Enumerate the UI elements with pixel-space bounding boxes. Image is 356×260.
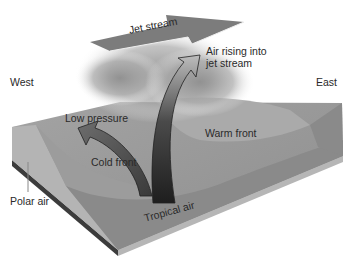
diagram-graphic [0, 0, 356, 260]
east-label: East [316, 77, 337, 89]
warm-front-label: Warm front [205, 128, 257, 140]
cyclone-diagram: Jet stream Air rising into jet stream We… [0, 0, 356, 260]
low-pressure-label: Low pressure [65, 113, 128, 125]
air-rising-label-line1: Air rising into [206, 46, 267, 58]
cold-front-label: Cold front [91, 157, 137, 169]
west-label: West [10, 77, 34, 89]
polar-air-label: Polar air [10, 196, 49, 208]
air-rising-label-line2: jet stream [206, 58, 252, 70]
